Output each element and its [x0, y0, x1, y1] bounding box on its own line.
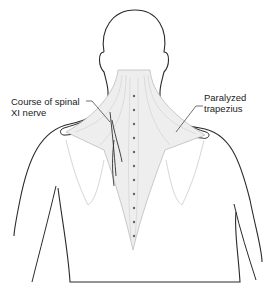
- scapula-right: [166, 140, 204, 205]
- trapezius-muscle: [66, 70, 205, 250]
- label-paralyzed-trapezius: Paralyzed trapezius: [204, 92, 246, 114]
- anatomy-illustration: [0, 0, 269, 298]
- torso-left: [58, 188, 240, 282]
- label-right-line2: trapezius: [204, 103, 246, 114]
- left-arm: [32, 186, 56, 282]
- label-left-line1: Course of spinal: [11, 96, 80, 107]
- label-right-line1: Paralyzed: [204, 92, 246, 103]
- scapula-left: [66, 140, 104, 205]
- label-left-line2: XI nerve: [11, 107, 80, 118]
- label-spinal-xi-nerve: Course of spinal XI nerve: [11, 96, 80, 118]
